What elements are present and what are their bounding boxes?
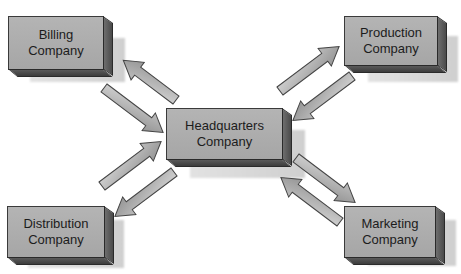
- box-side: [104, 206, 114, 264]
- box-bottom: [166, 159, 292, 167]
- production-company-label: Production Company: [360, 25, 422, 57]
- box-side: [435, 206, 445, 264]
- distribution-company-node: Distribution Company: [7, 206, 105, 258]
- billing-company-label: Billing Company: [28, 27, 84, 59]
- box-bottom: [8, 69, 113, 77]
- box-bottom: [344, 257, 445, 265]
- marketing-company-node: Marketing Company: [344, 206, 436, 258]
- distribution-company-label: Distribution Company: [23, 216, 88, 248]
- headquarters-company-label: Headquarters Company: [185, 118, 264, 150]
- billing-company-node: Billing Company: [8, 16, 104, 70]
- box-bottom: [344, 65, 447, 73]
- box-bottom: [7, 257, 114, 265]
- production-company-node: Production Company: [344, 16, 438, 66]
- marketing-company-label: Marketing Company: [361, 216, 418, 248]
- box-side: [103, 16, 113, 76]
- box-side: [437, 16, 447, 72]
- headquarters-company-node: Headquarters Company: [166, 108, 283, 160]
- box-side: [282, 108, 292, 166]
